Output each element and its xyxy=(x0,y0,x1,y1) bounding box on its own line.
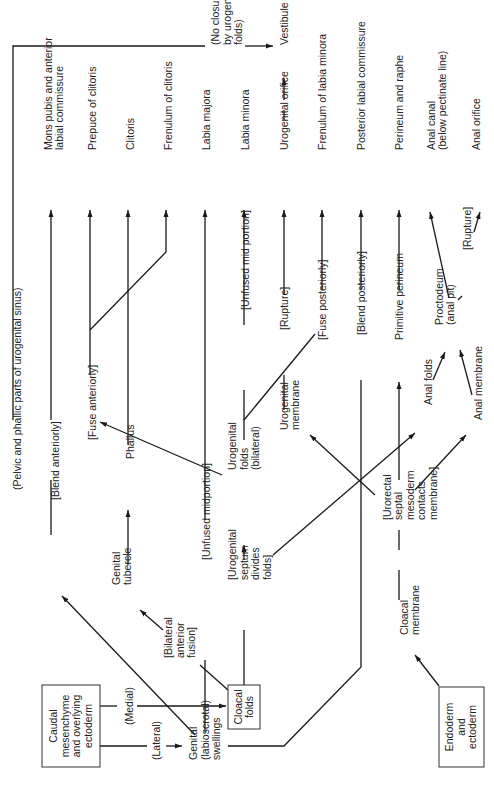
cloacal-membrane-label: Cloacalmembrane xyxy=(398,585,422,635)
phallus-label: Phallus xyxy=(124,425,136,459)
rupture-1-label: [Rupture] xyxy=(278,287,290,330)
labia-majora-label: Labia majora xyxy=(200,89,212,150)
urogenital-orifice-label: Urogenital orifice xyxy=(278,71,290,150)
fuse-posteriorly-label: [Fuse posteriorly] xyxy=(316,259,328,340)
unfused-mid-portion-label: [Unfused mid portion] xyxy=(239,210,251,310)
prepuce-label: Prepuce of clitoris xyxy=(86,67,98,150)
connector-lines xyxy=(13,46,480,746)
labia-minora-label: Labia minora xyxy=(239,89,251,150)
no-closure-label: (No closureby urogenitalfolds) xyxy=(209,0,244,45)
bilateral-anterior-fusion-label: [Bilateralanteriorfusion] xyxy=(162,617,197,658)
unfused-midportion-label: [Unfused midportion] xyxy=(200,463,212,560)
endoderm-box: Endodermandectoderm xyxy=(439,687,484,767)
fuse-anteriorly-label: [Fuse anteriorly] xyxy=(86,365,98,440)
genital-swellings-label: Genital(labioscrotal)swellings xyxy=(187,700,222,760)
anal-membrane-label: Anal membrane xyxy=(472,346,484,420)
frenulum-clitoris-label: Frenulum of clitoris xyxy=(162,61,174,150)
pelvic-phallic-label: (Pelvic and phallic parts of urogenital … xyxy=(11,287,23,490)
clitoris-label: Clitoris xyxy=(124,118,136,150)
text-labels: (Pelvic and phallic parts of urogenital … xyxy=(11,0,484,760)
primitive-perineum-label: Primitive perineum xyxy=(393,253,405,340)
blend-posteriorly-label: [Blend posteriorly] xyxy=(355,251,367,335)
genital-tubercle-label: Genitaltubercle xyxy=(110,547,134,585)
urogenital-septum-label: [Urogenitalseptumdividesfolds] xyxy=(226,529,273,580)
caudal-box: Caudalmesenchymeand overlyingectoderm xyxy=(42,685,100,767)
urogenital-membrane-label: Urogenitalmembrane xyxy=(278,380,302,430)
posterior-labial-commissure-label: Posterior labial commissure xyxy=(355,21,367,150)
urorectal-septal-label: [Urorectalseptalmesodermcontactsmembrane… xyxy=(381,467,439,520)
anal-orifice-label: Anal orifice xyxy=(470,98,482,150)
perineum-raphe-label: Perineum and raphe xyxy=(393,55,405,150)
lateral-label: (Lateral) xyxy=(150,721,162,760)
anal-canal-label: Anal canal(below pectinate line) xyxy=(425,51,449,150)
proctodeum-label: Proctodeum(anal pit) xyxy=(433,268,457,325)
frenulum-labia-minora-label: Frenulum of labia minora xyxy=(316,34,328,150)
blend-anteriorly-label: [Blend anteriorly] xyxy=(49,421,61,500)
medial-label: (Medial) xyxy=(123,687,135,725)
anal-folds-label: Anal folds xyxy=(422,359,434,405)
mons-pubis-label: Mons pubis and anteriorlabial commissure xyxy=(42,37,66,150)
embryology-flow-diagram: Caudalmesenchymeand overlyingectodermClo… xyxy=(0,0,494,785)
cloacal-folds-box: Cloacalfolds xyxy=(228,685,260,729)
rupture-2-label: [Rupture] xyxy=(461,207,473,250)
vestibule-label: Vestibule xyxy=(278,2,290,45)
boxes: Caudalmesenchymeand overlyingectodermClo… xyxy=(42,685,484,767)
